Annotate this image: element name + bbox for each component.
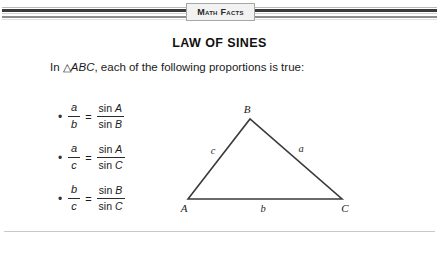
equals-sign: = [85, 152, 91, 164]
fraction-bar [68, 116, 80, 117]
header-banner: Math Facts [0, 0, 439, 26]
triangle-symbol-icon: △ [63, 61, 71, 73]
fraction-numerator: a [68, 142, 80, 156]
fraction-numerator: sin B [97, 184, 124, 197]
angle-numerator: A [115, 143, 122, 155]
side-label-c: c [211, 145, 216, 156]
fraction-right: sin B sin C [97, 184, 125, 213]
bullet-icon: • [58, 111, 68, 123]
sin-function-numerator: sin [99, 143, 112, 155]
fraction-bar [68, 198, 80, 199]
fraction-denominator: sin C [97, 159, 125, 172]
fraction-numerator: sin A [97, 102, 124, 115]
side-label-b: b [260, 203, 265, 214]
sin-function-denominator: sin [99, 200, 112, 212]
vertex-label-a: A [180, 202, 188, 214]
equals-sign: = [85, 193, 91, 205]
fraction-denominator: b [68, 118, 80, 132]
fraction-bar [97, 157, 125, 158]
fraction-left: b c [68, 183, 80, 214]
triangle-shape [188, 119, 342, 199]
fraction-denominator: sin B [97, 118, 124, 131]
intro-sentence: In △ABC, each of the following proportio… [50, 61, 304, 74]
angle-numerator: A [115, 102, 122, 114]
banner-label-text: Math Facts [197, 8, 244, 17]
triangle-diagram: B A C c a b [175, 92, 365, 217]
banner-label-box: Math Facts [186, 3, 255, 21]
sin-function-denominator: sin [99, 118, 112, 130]
list-item: • a c = sin A sin C [58, 137, 188, 178]
equals-sign: = [85, 111, 91, 123]
fraction-left: a b [68, 101, 80, 132]
sin-function-numerator: sin [99, 102, 112, 114]
fraction-bar [68, 157, 80, 158]
list-item: • b c = sin B sin C [58, 178, 188, 219]
fraction-denominator: c [68, 200, 80, 214]
side-label-a: a [298, 143, 303, 154]
angle-denominator: C [115, 159, 123, 171]
angle-denominator: B [115, 118, 122, 130]
sin-function-numerator: sin [99, 184, 112, 196]
list-item: • a b = sin A sin B [58, 96, 188, 137]
fraction-numerator: b [68, 183, 80, 197]
vertex-label-b: B [244, 103, 251, 115]
fraction-bar [97, 198, 125, 199]
fraction-left: a c [68, 142, 80, 173]
sin-function-denominator: sin [99, 159, 112, 171]
intro-prefix: In [50, 61, 63, 73]
fraction-bar [97, 116, 124, 117]
footer-divider [4, 231, 435, 232]
proportion-list: • a b = sin A sin B • a c = sin A sin C … [58, 96, 188, 219]
intro-triangle-name: ABC [71, 61, 95, 73]
vertex-label-c: C [341, 202, 349, 214]
fraction-right: sin A sin B [97, 102, 124, 131]
page-title: LAW OF SINES [0, 36, 439, 50]
fraction-numerator: a [68, 101, 80, 115]
fraction-denominator: c [68, 159, 80, 173]
intro-suffix: , each of the following proportions is t… [94, 61, 304, 73]
bullet-icon: • [58, 193, 68, 205]
bullet-icon: • [58, 152, 68, 164]
angle-denominator: C [115, 200, 123, 212]
angle-numerator: B [115, 184, 122, 196]
fraction-denominator: sin C [97, 200, 125, 213]
fraction-numerator: sin A [97, 143, 124, 156]
fraction-right: sin A sin C [97, 143, 125, 172]
